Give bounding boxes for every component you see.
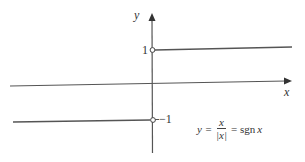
formula-rhs-var: x	[257, 123, 262, 135]
x-axis-arrow-icon	[284, 78, 292, 85]
formula: y = x |x| = sgn x	[197, 116, 262, 141]
formula-rhs: = sgn	[231, 123, 255, 135]
open-circle-bottom	[151, 118, 156, 123]
y-axis	[152, 20, 153, 153]
ray-positive	[155, 47, 292, 50]
formula-numerator: x	[217, 116, 226, 129]
x-axis-label: x	[284, 86, 289, 98]
open-circle-top	[150, 48, 155, 53]
ray-negative	[13, 120, 150, 122]
formula-lhs: y =	[197, 123, 212, 135]
tick-label-one: 1	[142, 44, 148, 56]
y-axis-arrow-icon	[149, 13, 156, 21]
formula-fraction: x |x|	[216, 116, 227, 141]
formula-denominator: |x|	[216, 129, 227, 141]
y-axis-label: y	[134, 9, 139, 21]
tick-label-neg-one: −1	[159, 113, 172, 125]
x-axis	[10, 81, 286, 86]
